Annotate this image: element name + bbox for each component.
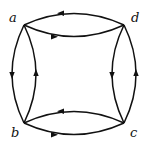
- edge-d-to-a-outer: [24, 14, 124, 26]
- edge-a-to-d-inner: [24, 25, 124, 37]
- vertex-label-b: b: [11, 125, 19, 140]
- arrow-up-icon: [33, 69, 38, 76]
- edge-b-to-c-outer: [24, 123, 124, 135]
- arrow-down-icon: [109, 72, 114, 79]
- arrow-up-icon: [133, 69, 138, 76]
- vertex-label-d: d: [131, 10, 139, 25]
- edge-c-to-b-inner: [24, 112, 124, 124]
- directed-graph-diagram: a d b c: [0, 0, 149, 145]
- vertex-label-a: a: [9, 10, 17, 25]
- vertex-label-c: c: [130, 125, 138, 140]
- arrow-down-icon: [9, 72, 14, 79]
